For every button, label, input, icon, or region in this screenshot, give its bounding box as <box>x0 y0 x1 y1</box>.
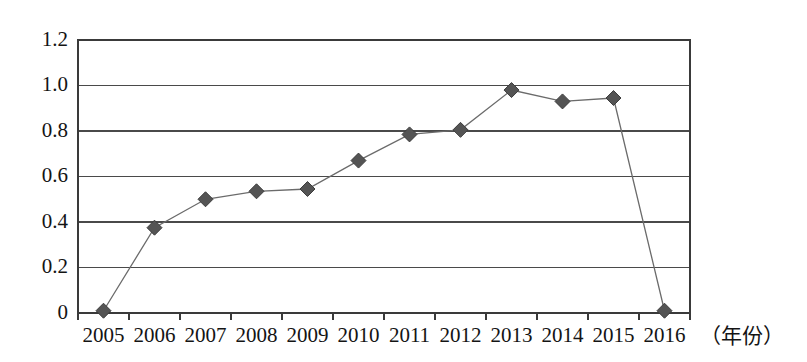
x-axis-tick-label: 2015 <box>593 323 635 347</box>
chart-background <box>0 0 807 362</box>
x-axis-tick-label: 2011 <box>389 323 430 347</box>
x-axis-tick-label: 2012 <box>440 323 482 347</box>
y-axis-tick-label: 1.2 <box>42 27 68 51</box>
x-axis-tick-label: 2014 <box>542 323 585 347</box>
x-axis-tick-label: 2005 <box>83 323 125 347</box>
y-axis-tick-label: 0.8 <box>42 118 68 142</box>
y-axis-tick-label: 0.4 <box>42 209 69 233</box>
chart-canvas: 00.20.40.60.81.01.2 20052006200720082009… <box>0 0 807 362</box>
x-axis-tick-label: 2009 <box>287 323 329 347</box>
x-axis-tick-label: 2016 <box>644 323 686 347</box>
y-axis-tick-label: 0 <box>58 300 69 324</box>
line-chart: 00.20.40.60.81.01.2 20052006200720082009… <box>0 0 807 362</box>
x-axis-title: （年份） <box>700 324 784 348</box>
y-axis-tick-label: 0.6 <box>42 163 68 187</box>
y-axis-tick-label: 0.2 <box>42 254 68 278</box>
x-axis-tick-label: 2010 <box>338 323 380 347</box>
x-axis-tick-label: 2008 <box>236 323 278 347</box>
y-axis-tick-label: 1.0 <box>42 72 68 96</box>
x-axis-tick-label: 2006 <box>134 323 176 347</box>
x-axis-tick-label: 2013 <box>491 323 533 347</box>
x-axis-tick-label: 2007 <box>185 323 227 347</box>
